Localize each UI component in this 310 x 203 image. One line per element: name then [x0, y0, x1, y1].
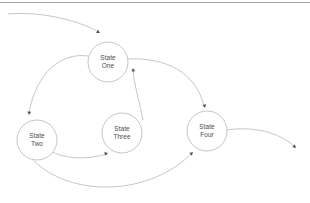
node-state-four-label-line2: Four	[200, 131, 214, 138]
edge-entry-to-state-one	[8, 13, 99, 32]
edge-state-three-to-state-one	[133, 70, 143, 120]
edge-state-four-to-exit	[227, 129, 295, 147]
node-state-four-label-line1: State	[199, 123, 215, 130]
edge-state-one-to-state-four	[128, 59, 204, 106]
node-state-two[interactable]: State Two	[17, 120, 57, 160]
edge-state-two-to-state-three	[52, 152, 107, 158]
edges-layer	[8, 13, 295, 187]
node-state-one-label-line1: State	[100, 54, 116, 61]
arrowheads-layer	[27, 30, 296, 156]
node-state-two-label-line1: State	[29, 132, 45, 139]
edge-state-one-to-state-two	[29, 55, 88, 113]
node-state-three[interactable]: State Three	[102, 113, 142, 153]
state-diagram: State One State Two State Three State Fo…	[0, 0, 310, 203]
arrowhead-state-two-to-state-three	[104, 152, 108, 156]
node-state-one[interactable]: State One	[88, 42, 128, 82]
arrowhead-state-one-to-state-four	[202, 104, 206, 108]
arrowhead-entry-to-state-one	[96, 30, 100, 33]
diagram-canvas: State One State Two State Three State Fo…	[0, 0, 310, 203]
node-state-three-label-line1: State	[114, 125, 130, 132]
node-state-four[interactable]: State Four	[187, 111, 227, 151]
edge-state-two-to-state-four	[34, 153, 192, 187]
arrowhead-state-three-to-state-one	[131, 68, 135, 72]
node-state-one-label-line2: One	[102, 62, 115, 69]
node-state-three-label-line2: Three	[113, 133, 131, 140]
arrowhead-state-one-to-state-two	[27, 111, 31, 115]
node-state-two-label-line2: Two	[31, 140, 43, 147]
nodes-layer: State One State Two State Three State Fo…	[17, 42, 227, 160]
